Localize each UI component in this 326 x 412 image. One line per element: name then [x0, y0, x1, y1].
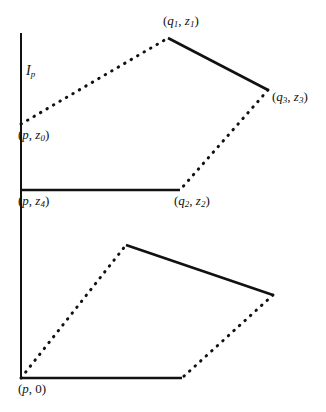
- edge-lower-top-right: [126, 245, 273, 295]
- edge-lower-right-bottom: [182, 295, 273, 378]
- label-p0-close: ): [42, 381, 46, 396]
- label-point-p-z4: (p, z4): [18, 194, 49, 207]
- label-pz0-close: ): [45, 127, 49, 142]
- label-pz4-close: ): [45, 193, 49, 208]
- label-point-q3-z3: (q3, z3): [272, 90, 308, 103]
- edge-p0-lower-top: [21, 245, 126, 378]
- label-point-p-0: (p, 0): [18, 382, 46, 395]
- edge-q1z1-q3z3: [168, 38, 268, 90]
- label-interval-ip: Ip: [26, 64, 35, 78]
- label-ip-sub: p: [31, 69, 36, 79]
- label-q2z2-close: ): [205, 193, 209, 208]
- edge-q3z3-q2z2: [180, 90, 268, 190]
- label-point-p-z0: (p, z0): [18, 128, 49, 141]
- label-q3z3-close: ): [303, 89, 307, 104]
- label-q1z1-close: ): [194, 13, 198, 28]
- label-point-q2-z2: (q2, z2): [174, 194, 210, 207]
- label-point-q1-z1: (q1, z1): [163, 14, 199, 27]
- edge-pz0-q1z1: [21, 38, 168, 124]
